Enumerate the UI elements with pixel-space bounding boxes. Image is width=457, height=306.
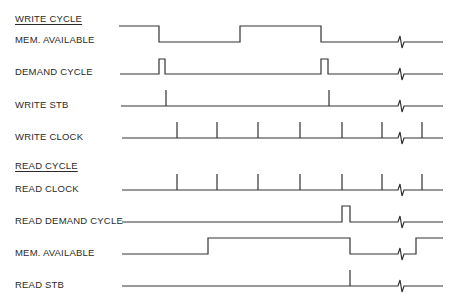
write-clock-waveform	[122, 122, 443, 144]
timing-waveforms	[0, 0, 457, 306]
read-mem-available-waveform	[122, 238, 443, 260]
write-stb-waveform	[121, 90, 443, 112]
read-stb-waveform	[122, 270, 443, 292]
write-demand-cycle-waveform	[120, 59, 443, 80]
read-demand-cycle-waveform	[122, 206, 443, 228]
write-mem-available-waveform	[119, 26, 443, 48]
read-clock-waveform	[122, 174, 443, 196]
